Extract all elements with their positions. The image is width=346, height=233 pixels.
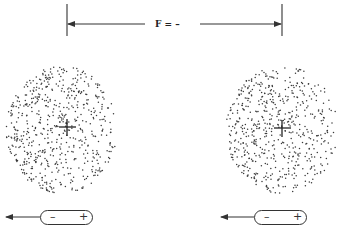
- electron-clouds: [6, 66, 336, 193]
- force-label: F = –: [152, 19, 183, 29]
- left-nucleus-icon: [59, 119, 76, 136]
- positive-charge-icon: +: [293, 210, 302, 224]
- diagram-svg: [0, 0, 346, 233]
- left-dipole: – +: [40, 210, 93, 225]
- diagram-canvas: F = – – + – +: [0, 0, 346, 233]
- right-nucleus-icon: [274, 120, 291, 137]
- negative-charge-icon: –: [50, 210, 56, 224]
- positive-charge-icon: +: [79, 210, 88, 224]
- negative-charge-icon: –: [264, 210, 270, 224]
- right-dipole: – +: [254, 210, 307, 225]
